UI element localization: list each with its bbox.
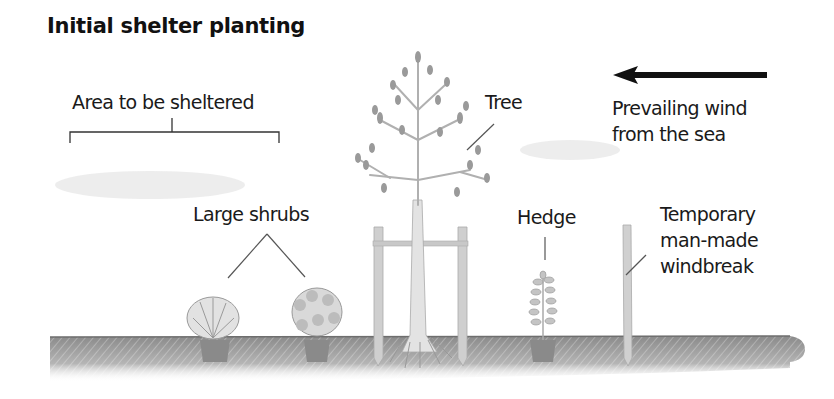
mist — [55, 140, 620, 199]
label-windbreak-line1: Temporary — [660, 200, 755, 229]
label-wind-line1: Prevailing wind — [612, 94, 747, 123]
label-wind-line2: from the sea — [612, 120, 726, 149]
wind-arrow-icon — [613, 66, 767, 84]
label-hedge: Hedge — [517, 203, 576, 232]
label-windbreak-line3: windbreak — [660, 252, 753, 281]
label-tree: Tree — [485, 88, 522, 117]
tree-leader — [467, 124, 494, 150]
label-area-to-be-sheltered: Area to be sheltered — [72, 88, 254, 117]
hedge-plant — [529, 237, 557, 362]
area-bracket — [70, 118, 279, 143]
label-large-shrubs: Large shrubs — [193, 200, 309, 229]
label-windbreak-line2: man-made — [660, 226, 758, 255]
shrubs-leader — [228, 234, 305, 278]
